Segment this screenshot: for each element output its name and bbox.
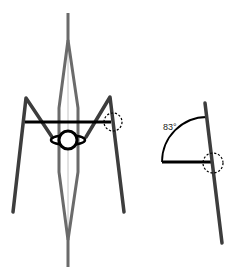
diagram-canvas: 83° [0,0,240,274]
left-leg [13,98,52,212]
angle-label: 83° [163,122,177,132]
hub-circle [59,131,77,149]
right-figure: 83° [162,103,223,243]
left-figure [13,13,124,267]
inclined-pole [205,103,222,243]
right-leg [86,97,124,212]
